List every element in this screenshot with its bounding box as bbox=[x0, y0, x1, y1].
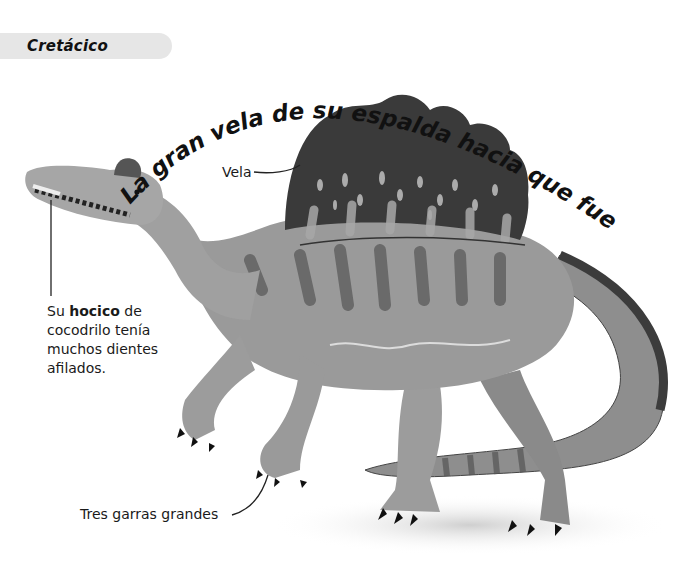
snout-term: hocico bbox=[69, 303, 120, 319]
spinosaurus-illustration: La gran vela de su espalda hacia que fue… bbox=[0, 0, 680, 566]
snout-caption: Su hocico de cocodrilo tenía muchos dien… bbox=[47, 302, 158, 378]
back-leg-left bbox=[380, 385, 442, 512]
claws-leader-line bbox=[232, 475, 268, 515]
front-arm-left bbox=[182, 335, 255, 440]
sail-label: Vela bbox=[222, 163, 252, 182]
ground-shadow bbox=[270, 495, 670, 555]
claws-label: Tres garras grandes bbox=[80, 505, 218, 524]
